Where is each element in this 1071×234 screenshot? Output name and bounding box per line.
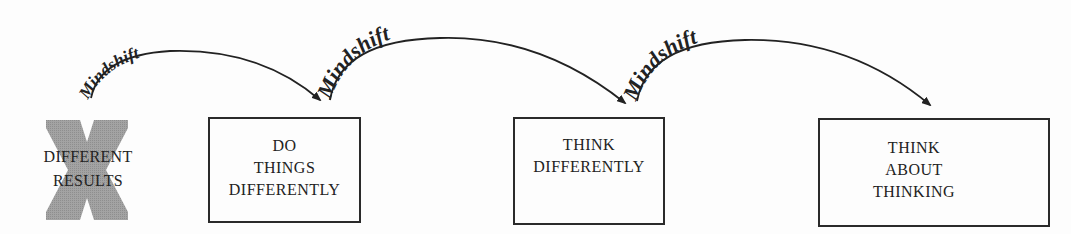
mindshift-arrow-1: Mindshift: [74, 43, 320, 103]
box-line: ABOUT: [820, 159, 1008, 181]
mindshift-diagram: Mindshift Mindshift Mindshift DIFFERENT …: [0, 0, 1071, 234]
svg-text:Mindshift: Mindshift: [74, 43, 142, 103]
step-box-think-differently: THINK DIFFERENTLY: [513, 117, 665, 225]
step-box-think-about-thinking: THINK ABOUT THINKING: [818, 118, 1050, 227]
mindshift-arrow-3: Mindshift: [617, 23, 930, 105]
mindshift-label-3: Mindshift: [617, 23, 700, 104]
box-line: DIFFERENTLY: [515, 156, 663, 178]
svg-text:Mindshift: Mindshift: [617, 23, 700, 104]
mindshift-label-1: Mindshift: [74, 43, 142, 103]
mindshift-arrow-2: Mindshift: [311, 20, 625, 103]
box-line: THINGS: [210, 157, 359, 179]
start-label-line: DIFFERENT: [24, 145, 152, 169]
box-line: DIFFERENTLY: [210, 179, 359, 201]
start-label: DIFFERENT RESULTS: [24, 145, 152, 193]
mindshift-label-2: Mindshift: [311, 20, 393, 103]
start-label-line: RESULTS: [24, 169, 152, 193]
box-line: DO: [210, 135, 359, 157]
box-line: THINKING: [820, 181, 1008, 203]
box-line: THINK: [515, 134, 663, 156]
box-line: THINK: [820, 137, 1008, 159]
step-box-do-things-differently: DO THINGS DIFFERENTLY: [208, 117, 361, 223]
svg-text:Mindshift: Mindshift: [311, 20, 393, 103]
